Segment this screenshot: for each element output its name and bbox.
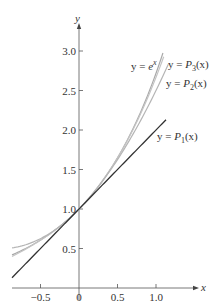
x-tick-label: −0.5 (31, 291, 51, 303)
annotation-p2: y = P2(x) (166, 78, 207, 92)
y-tick-label: 3.0 (62, 45, 76, 57)
curve-y-p2-x- (12, 64, 168, 248)
curve-y-p1-x- (12, 120, 166, 278)
y-tick-label: 1.5 (62, 164, 76, 176)
y-tick-label: 1.0 (62, 203, 76, 215)
curve-y-p3-x- (12, 57, 164, 257)
x-axis-arrow-icon (193, 286, 199, 290)
x-tick-label: 1.0 (149, 291, 163, 303)
y-tick-label: 2.0 (62, 124, 76, 136)
curve-y-e-x (12, 53, 163, 255)
x-axis-label: x (201, 282, 206, 293)
annotation-p1: y = P1(x) (157, 131, 198, 145)
annotation-exp: y = ex (131, 59, 157, 72)
tick-labels: −0.500.51.00.51.01.52.02.53.0 (31, 45, 164, 303)
y-tick-label: 2.5 (62, 85, 76, 97)
chart-plot-area: −0.500.51.00.51.01.52.02.53.0 (0, 0, 215, 308)
annotation-p3: y = P3(x) (168, 59, 209, 73)
y-axis-label: y (75, 13, 80, 24)
x-tick-label: 0 (76, 291, 82, 303)
curves (12, 53, 168, 278)
x-tick-label: 0.5 (111, 291, 125, 303)
y-tick-label: 0.5 (62, 243, 76, 255)
